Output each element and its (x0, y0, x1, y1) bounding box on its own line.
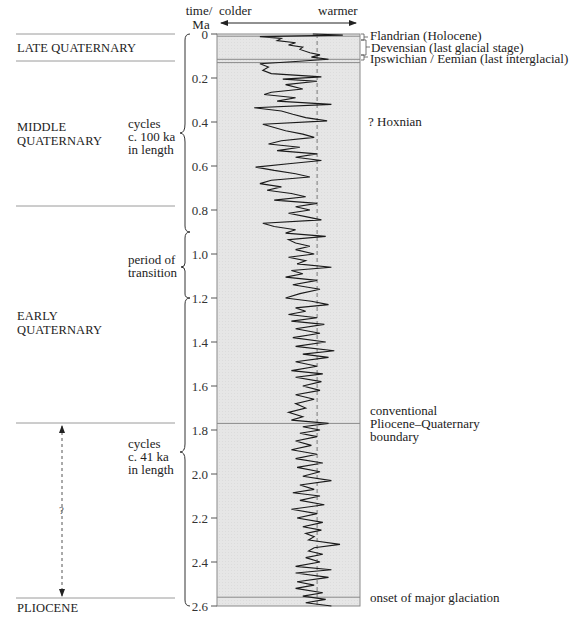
y-tick-label: 0.2 (192, 71, 208, 86)
y-tick-label: 0.4 (192, 115, 209, 130)
label-pliocene-quaternary-boundary: conventional Pliocene–Quaternary boundar… (370, 404, 480, 443)
y-tick-label: 0.8 (192, 203, 208, 218)
period-label-line: QUATERNARY (17, 323, 102, 337)
time-axis-title: time/ Ma (184, 4, 214, 32)
y-tick-label: 1.6 (192, 379, 209, 394)
period-label-line: LATE QUATERNARY (17, 41, 136, 55)
period-label-line: PLIOCENE (17, 601, 78, 615)
label-hoxnian: ? Hoxnian (368, 115, 422, 129)
annotation-line: transition (128, 266, 177, 279)
y-tick-label: 1.8 (192, 423, 208, 438)
boundary-label-line: boundary (370, 430, 480, 443)
brace-100ka (180, 34, 190, 232)
period-pliocene: PLIOCENE (17, 601, 78, 615)
y-tick-label: 2.6 (192, 599, 209, 614)
truncated-caption (14, 618, 574, 624)
plot-area (217, 34, 360, 606)
period-label-line: EARLY (17, 309, 102, 323)
y-tick-label: 1.2 (192, 291, 208, 306)
period-middle-quaternary: MIDDLE QUATERNARY (17, 120, 102, 148)
warmer-label: warmer (318, 4, 358, 18)
annotation-line: in length (128, 143, 175, 156)
y-tick-label: 2.0 (192, 467, 208, 482)
axis-title-line2: Ma (188, 18, 214, 32)
annotation-cycles-100ka: cycles c. 100 ka in length (128, 117, 175, 156)
period-late-quaternary: LATE QUATERNARY (17, 41, 136, 55)
y-tick-label: 0.6 (192, 159, 209, 174)
period-label-line: MIDDLE (17, 120, 102, 134)
brace-transition (181, 232, 190, 298)
uncertain-label: ? (59, 503, 64, 517)
axis-title-line1: time/ (184, 4, 214, 18)
colder-label: colder (219, 4, 251, 18)
label-onset-major-glaciation: onset of major glaciation (370, 591, 500, 605)
period-label-line: QUATERNARY (17, 134, 102, 148)
y-tick-label: 2.2 (192, 511, 208, 526)
y-tick-label: 2.4 (192, 555, 209, 570)
y-tick-label: 1.4 (192, 335, 209, 350)
annotation-cycles-41ka: cycles c. 41 ka in length (128, 437, 174, 476)
right-label-brackets (361, 34, 370, 60)
brace-41ka (180, 298, 190, 606)
y-axis-ticks: 00.20.40.60.81.01.21.41.61.82.02.22.42.6 (192, 27, 217, 614)
y-tick-label: 1.0 (192, 247, 208, 262)
annotation-line: in length (128, 463, 174, 476)
period-early-quaternary: EARLY QUATERNARY (17, 309, 102, 337)
annotation-period-of-transition: period of transition (128, 253, 177, 279)
label-ipswichian: Ipswichian / Eemian (last interglacial) (370, 52, 568, 66)
